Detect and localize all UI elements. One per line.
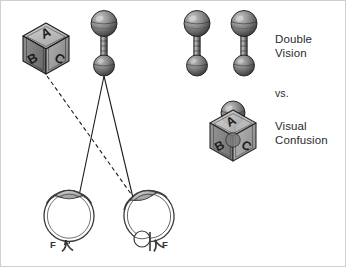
visual-confusion-composite: A B C bbox=[210, 101, 256, 161]
dumbbell-diplopia-image-2 bbox=[231, 11, 257, 77]
fovea-label-right-eye: F bbox=[162, 239, 168, 250]
figure-container: A B C A bbox=[0, 0, 346, 267]
cube-left-object: A B C bbox=[23, 23, 69, 74]
fovea-label-left-eye: F bbox=[50, 239, 56, 250]
dumbbell-diplopia-image-1 bbox=[184, 11, 210, 77]
label-double-vision: Double Vision bbox=[275, 32, 312, 60]
label-visual-confusion: Visual Confusion bbox=[275, 119, 328, 147]
label-versus: vs. bbox=[275, 86, 289, 100]
dumbbell-center-object bbox=[91, 11, 117, 77]
retinal-image-point bbox=[134, 231, 150, 251]
